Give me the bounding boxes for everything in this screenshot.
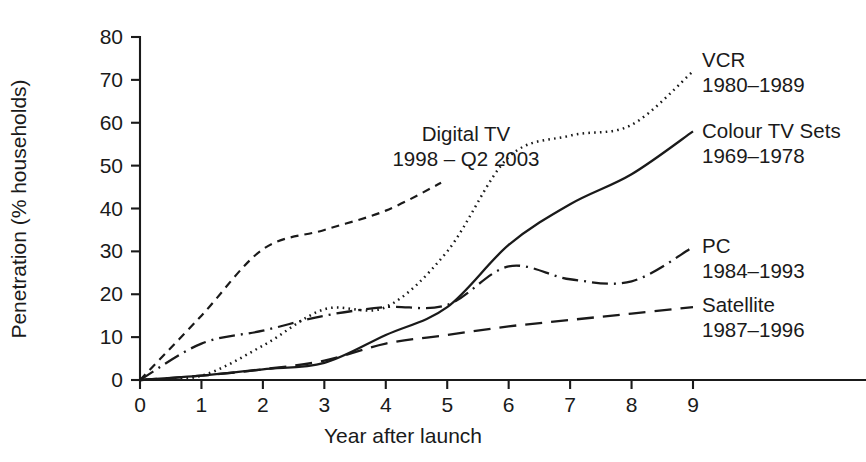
- y-tick-label: 50: [100, 154, 123, 177]
- x-tick-label: 9: [687, 393, 699, 416]
- series-line-vcr: [140, 71, 693, 380]
- y-tick-label: 70: [100, 68, 123, 91]
- series-line-satellite: [140, 307, 693, 380]
- series-label-colour-tv-period: 1969–1978: [702, 144, 805, 167]
- y-tick-label: 20: [100, 282, 123, 305]
- chart-figure: 01020304050607080 0123456789 Year after …: [0, 0, 866, 462]
- x-axis-title: Year after launch: [324, 424, 482, 447]
- x-tick-label: 6: [503, 393, 515, 416]
- series-label-pc-name: PC: [702, 234, 731, 257]
- y-tick-label: 80: [100, 25, 123, 48]
- x-tick-label: 3: [318, 393, 330, 416]
- series-label-pc-period: 1984–1993: [702, 259, 805, 282]
- series-label-colour-tv-name: Colour TV Sets: [702, 119, 841, 142]
- y-tick-label: 10: [100, 325, 123, 348]
- x-tick-label: 5: [441, 393, 453, 416]
- y-tick-label: 40: [100, 197, 123, 220]
- series-label-satellite-name: Satellite: [702, 293, 775, 316]
- series-lines: [140, 71, 693, 380]
- line-chart: 01020304050607080 0123456789 Year after …: [0, 0, 866, 462]
- series-label-satellite-period: 1987–1996: [702, 318, 805, 341]
- y-tick-label: 0: [111, 368, 123, 391]
- x-tick-label: 0: [134, 393, 146, 416]
- digital-tv-annotation-line2: 1998 – Q2 2003: [392, 147, 539, 170]
- digital-tv-annotation-line1: Digital TV: [422, 122, 511, 145]
- x-axis-ticks: 0123456789: [134, 380, 699, 416]
- series-label-vcr-period: 1980–1989: [702, 73, 805, 96]
- series-label-vcr-name: VCR: [702, 48, 745, 71]
- x-tick-label: 4: [380, 393, 392, 416]
- x-tick-label: 2: [257, 393, 269, 416]
- x-tick-label: 1: [196, 393, 208, 416]
- series-line-pc: [140, 247, 693, 380]
- y-tick-label: 30: [100, 239, 123, 262]
- y-axis-ticks: 01020304050607080: [100, 25, 140, 391]
- x-tick-label: 8: [626, 393, 638, 416]
- y-axis-title: Penetration (% households): [7, 79, 30, 338]
- y-tick-label: 60: [100, 111, 123, 134]
- x-tick-label: 7: [564, 393, 576, 416]
